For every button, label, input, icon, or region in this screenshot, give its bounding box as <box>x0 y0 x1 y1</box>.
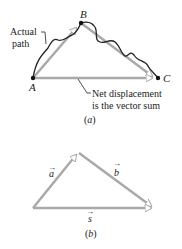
label-b: B <box>80 8 87 20</box>
net-label-1: Net displacement <box>92 88 162 99</box>
vector-bc <box>81 23 152 76</box>
svg-text:→: → <box>48 163 56 172</box>
net-label-2: is the vector sum <box>92 100 160 111</box>
caption-b: (b) <box>85 228 97 240</box>
vector-b-label: b <box>114 167 119 178</box>
panel-b: a → b → s → (b) <box>33 153 151 240</box>
point-c-dot <box>156 76 160 80</box>
point-a-dot <box>31 76 35 80</box>
caption-a: (a) <box>84 114 96 126</box>
point-b-dot <box>79 21 83 25</box>
label-c: C <box>163 72 171 84</box>
vector-diagram: B A C Actual path Net displacement is th… <box>0 0 182 249</box>
panel-a: B A C Actual path Net displacement is th… <box>10 8 171 126</box>
actual-path <box>33 22 158 78</box>
label-a: A <box>28 81 36 93</box>
net-label-leader <box>78 79 91 93</box>
actual-path-label-1: Actual <box>10 26 37 37</box>
actual-path-label-2: path <box>12 38 29 49</box>
svg-text:→: → <box>86 207 94 216</box>
svg-text:→: → <box>113 159 121 168</box>
